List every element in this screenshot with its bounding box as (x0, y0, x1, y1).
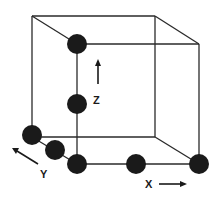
x-axis-label: X (145, 178, 153, 190)
z-axis-arrow-icon (95, 59, 101, 84)
atom-bottom-front-left (67, 154, 87, 174)
y-axis-arrow-icon (12, 148, 38, 164)
atom-mid-front-left (67, 94, 87, 114)
cube-back-face (32, 16, 155, 137)
y-axis-label: Y (40, 168, 48, 180)
atom-bottom-mid-left-edge (45, 140, 65, 160)
atom-bottom-mid-front-edge (126, 154, 146, 174)
x-axis-arrow-icon (159, 181, 187, 187)
lattice-diagram: Z Y X (0, 0, 223, 198)
atom-bottom-front-right (189, 154, 209, 174)
atom-top-front-left (67, 34, 87, 54)
atom-bottom-back-left (22, 125, 42, 145)
z-axis-label: Z (93, 94, 100, 106)
